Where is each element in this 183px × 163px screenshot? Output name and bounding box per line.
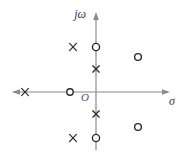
pole-zero-plot-canvas: jω σ O — [0, 0, 183, 163]
zero-marker — [135, 124, 142, 131]
pole-marker — [70, 134, 77, 141]
zero-marker — [135, 54, 142, 61]
zero-marker — [92, 134, 99, 141]
zero-marker — [67, 89, 73, 95]
pole-marker — [70, 43, 77, 50]
s-plane-figure: jω σ O — [0, 0, 183, 163]
real-axis-group — [12, 89, 170, 95]
real-axis-label: σ — [169, 94, 176, 108]
imag-axis-up-arrowhead — [93, 12, 99, 20]
real-axis-left-arrowhead — [12, 89, 20, 95]
imag-axis-label: jω — [72, 7, 86, 21]
origin-label: O — [81, 91, 89, 103]
zero-marker — [92, 43, 99, 50]
imag-axis-group — [93, 12, 99, 150]
